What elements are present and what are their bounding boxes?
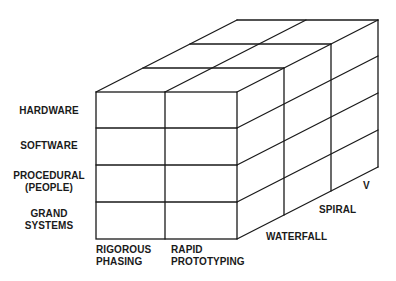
depth-label-spiral: SPIRAL (319, 204, 356, 216)
front-face (96, 92, 237, 239)
depth-label-waterfall: WATERFALL (266, 231, 327, 243)
top-face (96, 20, 378, 92)
column-label-rapid-prototyping: RAPID PROTOTYPING (171, 244, 245, 268)
column-label-rigorous-phasing-line2: PHASING (96, 256, 151, 268)
right-face (237, 20, 378, 239)
row-label-grand-systems-line1: GRAND (4, 208, 94, 220)
row-label-procedural: PROCEDURAL (PEOPLE) (4, 170, 94, 194)
column-label-rigorous-phasing: RIGOROUS PHASING (96, 244, 151, 268)
column-label-rigorous-phasing-line1: RIGOROUS (96, 244, 151, 256)
column-label-rapid-prototyping-line1: RAPID (171, 244, 245, 256)
row-label-procedural-line1: PROCEDURAL (4, 170, 94, 182)
row-label-grand-systems-line2: SYSTEMS (4, 220, 94, 232)
row-label-grand-systems: GRAND SYSTEMS (4, 208, 94, 232)
row-label-hardware: HARDWARE (4, 105, 94, 117)
row-label-procedural-line2: (PEOPLE) (4, 182, 94, 194)
column-label-rapid-prototyping-line2: PROTOTYPING (171, 256, 245, 268)
row-label-software: SOFTWARE (4, 140, 94, 152)
depth-label-v: V (363, 180, 370, 192)
